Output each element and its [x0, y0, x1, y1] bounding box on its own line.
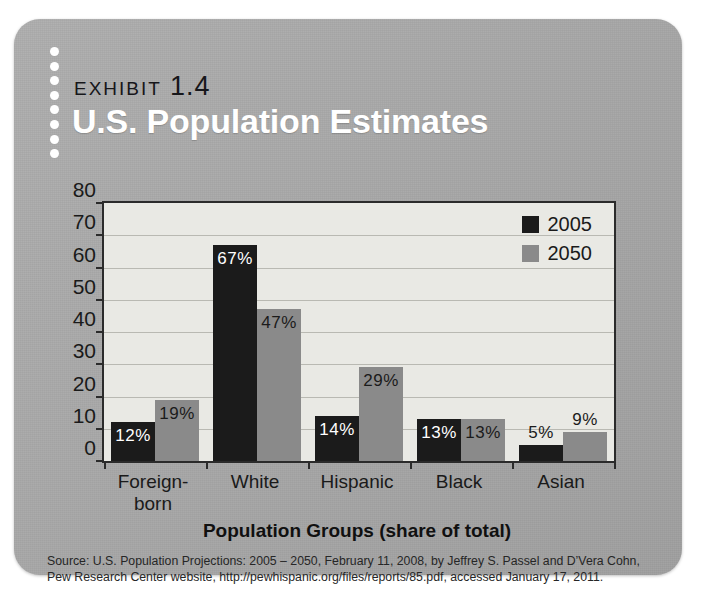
- legend-swatch-2050: [522, 245, 539, 262]
- page-title: U.S. Population Estimates: [72, 102, 488, 141]
- chart-legend: 20052050: [522, 213, 593, 265]
- x-tickmark-1: [206, 461, 208, 469]
- x-label-line1: Hispanic: [321, 471, 394, 492]
- bar-value-label: 5%: [528, 423, 554, 443]
- source-line-2: Pew Research Center website, http://pewh…: [47, 569, 677, 585]
- exhibit-word: Exhibit: [74, 71, 162, 101]
- y-tick-70: 70: [73, 210, 96, 234]
- exhibit-card: Exhibit1.4 U.S. Population Estimates 807…: [14, 19, 682, 575]
- bar-2050-white: 47%: [257, 309, 301, 461]
- y-tickmark-80: [96, 202, 104, 204]
- x-label-line2: born: [102, 493, 204, 515]
- legend-item-2050[interactable]: 2050: [522, 242, 593, 265]
- x-label-asian: Asian: [510, 471, 612, 515]
- bar-2050-foreign-born: 19%: [155, 400, 199, 461]
- bar-group-white: 67%47%: [206, 203, 308, 461]
- bar-value-label: 47%: [261, 313, 297, 333]
- source-line-1: Source: U.S. Population Projections: 200…: [47, 553, 677, 569]
- dotted-rule-decoration: [50, 47, 62, 165]
- y-tickmark-40: [96, 331, 104, 333]
- x-label-black: Black: [408, 471, 510, 515]
- bar-2050-black: 13%: [461, 419, 505, 461]
- y-tick-0: 0: [84, 436, 96, 460]
- plot-area: 12%19%67%47%14%29%13%13%5%9% 20052050: [102, 201, 616, 463]
- y-tick-40: 40: [73, 307, 96, 331]
- x-label-white: White: [204, 471, 306, 515]
- legend-label-2005: 2005: [548, 213, 593, 236]
- legend-swatch-2005: [522, 216, 539, 233]
- y-tickmark-70: [96, 234, 104, 236]
- bar-2005-asian: 5%: [519, 445, 563, 461]
- y-tickmark-10: [96, 428, 104, 430]
- y-tickmark-20: [96, 396, 104, 398]
- exhibit-number: 1.4: [170, 71, 211, 101]
- y-tick-30: 30: [73, 339, 96, 363]
- x-tickmark-0: [104, 461, 106, 469]
- bar-value-label: 67%: [217, 249, 253, 269]
- legend-item-2005[interactable]: 2005: [522, 213, 593, 236]
- y-tick-60: 60: [73, 243, 96, 267]
- bar-value-label: 13%: [421, 423, 457, 443]
- y-tickmark-50: [96, 299, 104, 301]
- x-label-line1: Black: [436, 471, 482, 492]
- bar-value-label: 12%: [115, 426, 151, 446]
- exhibit-label: Exhibit1.4: [74, 71, 210, 102]
- x-axis-title: Population Groups (share of total): [102, 520, 612, 542]
- x-tickmark-3: [410, 461, 412, 469]
- y-tickmark-30: [96, 363, 104, 365]
- bar-group-hispanic: 14%29%: [308, 203, 410, 461]
- source-note: Source: U.S. Population Projections: 200…: [47, 553, 677, 585]
- legend-label-2050: 2050: [548, 242, 593, 265]
- x-label-hispanic: Hispanic: [306, 471, 408, 515]
- x-tickmark-2: [308, 461, 310, 469]
- bar-value-label: 29%: [363, 371, 399, 391]
- bar-2050-asian: 9%: [563, 432, 607, 461]
- bar-chart: 80706050403020100 12%19%67%47%14%29%13%1…: [44, 174, 644, 474]
- bar-2005-black: 13%: [417, 419, 461, 461]
- bar-value-label: 19%: [159, 404, 195, 424]
- x-label-line1: Asian: [537, 471, 585, 492]
- screenshot-root: Exhibit1.4 U.S. Population Estimates 807…: [0, 0, 705, 589]
- y-tick-20: 20: [73, 372, 96, 396]
- bar-value-label: 9%: [572, 410, 598, 430]
- y-tick-80: 80: [73, 178, 96, 202]
- bar-2005-white: 67%: [213, 245, 257, 461]
- bar-2005-foreign-born: 12%: [111, 422, 155, 461]
- x-axis-tick-labels: Foreign-bornWhiteHispanicBlackAsian: [102, 471, 612, 515]
- x-label-line1: Foreign-: [118, 471, 189, 492]
- y-axis-tick-labels: 80706050403020100: [44, 190, 96, 448]
- bar-value-label: 14%: [319, 420, 355, 440]
- y-tickmark-0: [96, 460, 104, 462]
- x-label-foreign-born: Foreign-born: [102, 471, 204, 515]
- bar-2005-hispanic: 14%: [315, 416, 359, 461]
- bar-2050-hispanic: 29%: [359, 367, 403, 461]
- x-label-line1: White: [231, 471, 280, 492]
- x-tickmark-4: [512, 461, 514, 469]
- y-tickmark-60: [96, 267, 104, 269]
- y-tick-10: 10: [73, 404, 96, 428]
- y-tick-50: 50: [73, 275, 96, 299]
- bar-value-label: 13%: [465, 423, 501, 443]
- x-tickmark-5: [614, 461, 616, 469]
- bar-group-black: 13%13%: [410, 203, 512, 461]
- bar-group-foreign-born: 12%19%: [104, 203, 206, 461]
